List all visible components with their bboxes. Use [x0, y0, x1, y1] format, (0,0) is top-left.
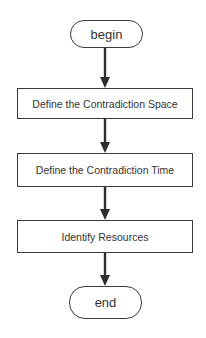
- flowchart: begin Define the Contradiction Space Def…: [0, 0, 206, 338]
- arrow-begin-to-step1: [100, 47, 110, 88]
- end-terminal: end: [69, 286, 142, 319]
- begin-terminal: begin: [70, 20, 143, 48]
- step2-label: Define the Contradiction Time: [36, 164, 174, 176]
- step-define-contradiction-space: Define the Contradiction Space: [17, 88, 193, 119]
- arrow-step1-to-step2: [100, 118, 110, 153]
- arrow-step2-to-step3: [100, 187, 110, 220]
- arrow-step3-to-end: [100, 253, 110, 286]
- begin-label: begin: [91, 27, 123, 42]
- step-define-contradiction-time: Define the Contradiction Time: [17, 153, 193, 187]
- end-label: end: [95, 295, 117, 310]
- step1-label: Define the Contradiction Space: [32, 98, 177, 110]
- step-identify-resources: Identify Resources: [17, 220, 193, 253]
- step3-label: Identify Resources: [62, 231, 149, 243]
